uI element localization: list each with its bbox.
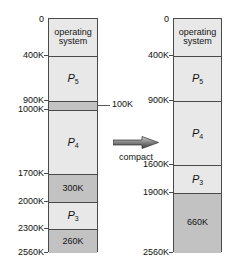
process-label: P4 (192, 128, 203, 140)
process-label: P5 (192, 73, 203, 85)
hole-callout-leader-line (98, 105, 110, 106)
after-compaction-address-0: 0 (127, 14, 169, 24)
after-compaction-tick-1600K (169, 164, 173, 165)
after-compaction-os-block: operating system (174, 19, 221, 56)
after-compaction-process-block-P5: P5 (174, 56, 221, 102)
after-compaction-tick-400K (169, 55, 173, 56)
after-compaction-process-block-P4: P4 (174, 101, 221, 165)
after-compaction-tick-1900K (169, 192, 173, 193)
os-label: operating system (179, 28, 217, 47)
after-compaction-address-400K: 400K (127, 50, 169, 60)
after-compaction-free-block-660K: 660K (174, 193, 221, 253)
after-compaction-address-2560K: 2560K (127, 247, 169, 257)
compact-arrow (113, 136, 159, 149)
after-compaction-process-block-P3: P3 (174, 165, 221, 192)
free-size-label: 660K (187, 218, 208, 228)
after-compaction-tick-2560K (169, 252, 173, 253)
after-compaction-address-1900K: 1900K (127, 187, 169, 197)
compact-arrow-caption: compact (112, 152, 160, 162)
right-arrow-icon (113, 136, 159, 149)
hole-callout-label: 100K (112, 99, 133, 109)
process-label: P3 (192, 174, 203, 186)
after-compaction-memory-box: operating systemP5P4P3660K (173, 18, 222, 252)
after-compaction-tick-900K (169, 100, 173, 101)
memory-compaction-figure: operating systemP5P4300KP3260K0400K900K1… (0, 0, 236, 272)
after-compaction-address-900K: 900K (127, 95, 169, 105)
